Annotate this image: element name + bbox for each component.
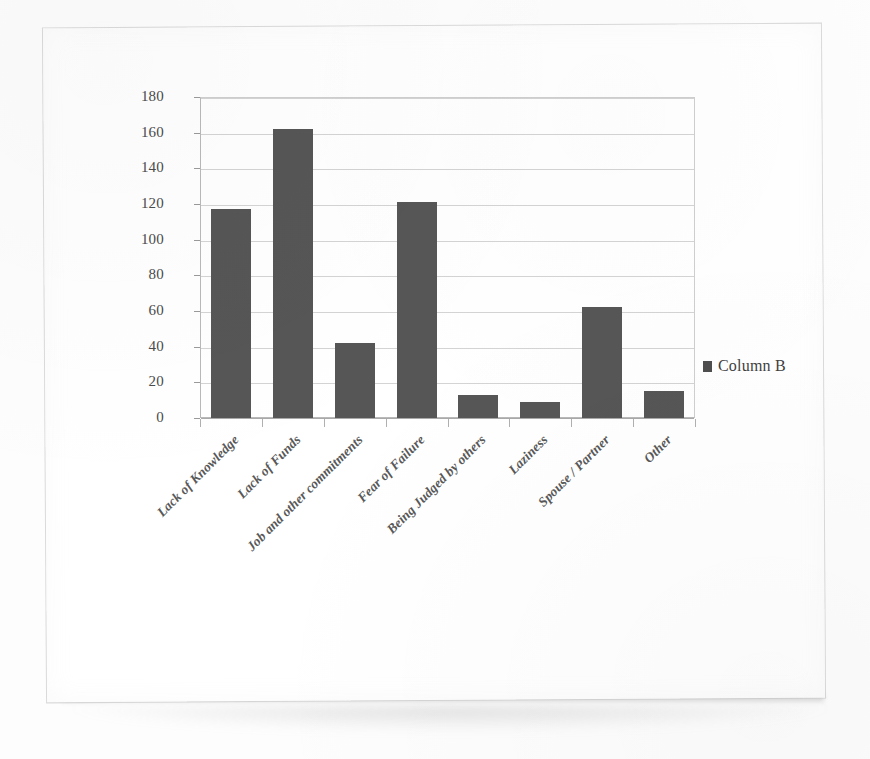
legend-label-column-b: Column B (718, 357, 786, 375)
x-tick-7 (633, 419, 634, 427)
x-label-other: Other (538, 432, 675, 569)
x-label-lack-of-knowledge: Lack of Knowledge (105, 432, 242, 569)
y-tick-label-80: 80 (44, 266, 164, 283)
bar-fear-of-failure (397, 202, 437, 418)
x-tick-8 (695, 419, 696, 427)
x-label-fear-of-failure: Fear of Failure (291, 432, 428, 569)
x-tick-1 (262, 419, 263, 427)
x-label-laziness: Laziness (414, 432, 551, 569)
scanned-page-root: 020406080100120140160180 Lack of Knowled… (0, 0, 870, 759)
bar-job-and-other-commitments (335, 343, 375, 418)
bar-lack-of-funds (273, 129, 313, 418)
x-tick-2 (324, 419, 325, 427)
bar-other (644, 391, 684, 418)
x-label-spouse-partner: Spouse / Partner (476, 432, 613, 569)
y-tick-label-140: 140 (44, 159, 164, 176)
legend: Column B (703, 357, 786, 375)
legend-swatch-icon (703, 361, 712, 372)
x-tick-4 (448, 419, 449, 427)
x-tick-0 (200, 419, 201, 427)
bar-spouse-partner (582, 307, 622, 418)
y-tick-label-180: 180 (44, 88, 164, 105)
x-label-being-judged-by-others: Being Judged by others (353, 432, 490, 569)
y-tick-label-40: 40 (44, 338, 164, 355)
bar-being-judged-by-others (458, 395, 498, 418)
y-tick-label-60: 60 (44, 302, 164, 319)
x-label-lack-of-funds: Lack of Funds (167, 432, 304, 569)
x-tick-5 (509, 419, 510, 427)
y-tick-label-0: 0 (44, 409, 164, 426)
bar-series-column-b (200, 97, 695, 418)
y-tick-label-100: 100 (44, 231, 164, 248)
bar-lack-of-knowledge (211, 209, 251, 418)
x-tick-6 (571, 419, 572, 427)
y-tick-label-160: 160 (44, 124, 164, 141)
x-label-job-and-other-commitments: Job and other commitments (229, 432, 366, 569)
y-tick-label-20: 20 (44, 373, 164, 390)
bar-laziness (520, 402, 560, 418)
x-tick-3 (386, 419, 387, 427)
y-tick-label-120: 120 (44, 195, 164, 212)
bar-chart: 020406080100120140160180 Lack of Knowled… (0, 0, 870, 759)
